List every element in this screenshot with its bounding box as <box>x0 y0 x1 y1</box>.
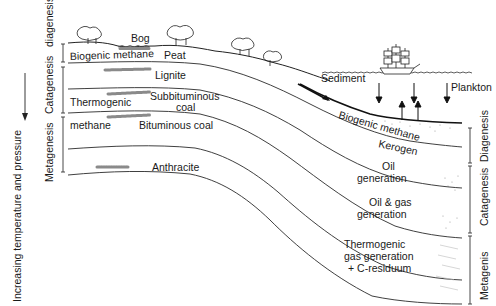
label-bog: Bog <box>131 32 150 44</box>
coal-seam-subbituminous <box>108 92 150 94</box>
left-stage-diagenesis: diagenesis <box>43 0 55 47</box>
bracket-diagenesis-right <box>468 128 472 163</box>
label-plankton: Plankton <box>451 81 492 93</box>
coal-seams <box>97 69 150 167</box>
sailing-ship-icon <box>380 44 420 74</box>
down-arrow-icon <box>22 113 28 121</box>
up-arrow-icon <box>415 101 421 107</box>
label-biogenic-methane-land: Biogenic methane <box>70 47 155 62</box>
plankton-arrows <box>376 83 450 120</box>
coal-seam-bituminous <box>108 115 150 117</box>
bracket-catagenesis-right <box>468 166 472 233</box>
label-oil: Oil <box>382 160 395 172</box>
right-stage-metagenis: Metagenis <box>478 252 490 300</box>
label-peat: Peat <box>164 49 186 61</box>
down-arrow-icon <box>411 97 417 103</box>
label-thermogenic-gas-1: Thermogenic <box>344 238 405 250</box>
label-subbituminous-coal: coal <box>176 101 195 113</box>
label-oil-gas-generation: generation <box>357 208 407 220</box>
axis-label: Increasing temperature and pressure <box>11 130 23 302</box>
bracket-metagenesis-right <box>468 236 472 304</box>
label-sediment: Sediment <box>321 72 365 84</box>
coal-and-petroleum-formation-diagram: Increasing temperature and pressure diag… <box>0 0 496 306</box>
marine-labels: Sediment Plankton Biogenic methane Kerog… <box>321 72 492 274</box>
gas-hatching <box>436 245 460 290</box>
tree-icon <box>77 26 101 44</box>
label-thermogenic: Thermogenic <box>70 96 131 108</box>
label-c-residuum: + C-residuum <box>348 262 412 274</box>
left-stage-catagenesis: Catagenesis <box>43 56 55 114</box>
left-stage-metagenesis: Metagenesis <box>43 122 55 182</box>
left-stage-labels: diagenesis Catagenesis Metagenesis <box>43 0 65 182</box>
down-arrow-icon <box>444 97 450 103</box>
label-oil-gas: Oil & gas <box>369 196 412 208</box>
label-lignite: Lignite <box>155 69 186 81</box>
seafloor-line <box>300 84 462 123</box>
bracket-diagenesis <box>61 44 65 62</box>
right-stage-labels: Diagenesis Catagenesis Metagenis <box>468 110 490 304</box>
label-thermogenic-gas-2: gas generation <box>344 250 414 262</box>
label-thermogenic-methane: methane <box>70 119 111 131</box>
label-anthracite: Anthracite <box>152 161 199 173</box>
label-bituminous-coal: Bituminous coal <box>139 119 213 131</box>
up-arrow-icon <box>399 101 405 107</box>
tree-icon <box>167 25 193 45</box>
right-stage-catagenesis: Catagenesis <box>478 168 490 226</box>
down-arrow-icon <box>376 97 382 103</box>
bracket-catagenesis <box>61 67 65 113</box>
bracket-metagenesis <box>61 117 65 172</box>
temperature-pressure-axis: Increasing temperature and pressure <box>11 73 28 302</box>
right-stage-diagenesis: Diagenesis <box>478 110 490 162</box>
label-oil-generation: generation <box>357 172 407 184</box>
land-labels: Bog Peat Biogenic methane Lignite Subbit… <box>70 32 220 173</box>
coal-seam-lignite <box>105 69 150 70</box>
